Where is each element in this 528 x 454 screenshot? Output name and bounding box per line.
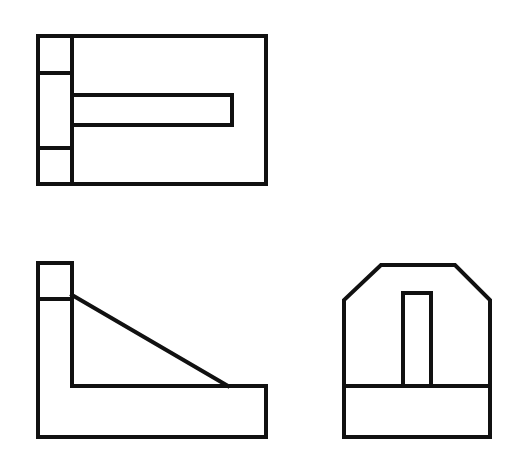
side-view-rib bbox=[403, 293, 431, 386]
front-view-outline bbox=[38, 263, 266, 437]
front-view-rib-diagonal bbox=[72, 295, 228, 386]
top-view-slot bbox=[72, 95, 232, 125]
orthographic-drawing bbox=[0, 0, 528, 454]
top-view bbox=[38, 36, 266, 184]
side-view-outline bbox=[344, 265, 490, 437]
front-view bbox=[38, 263, 266, 437]
side-view bbox=[344, 265, 490, 437]
